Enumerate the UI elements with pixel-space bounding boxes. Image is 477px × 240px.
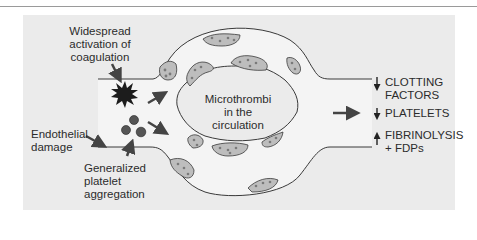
outcome-platelets: PLATELETS xyxy=(385,107,449,120)
outcome-clotting-factors: CLOTTING FACTORS xyxy=(385,76,443,102)
label-microthrombi: Microthrombi in the circulation xyxy=(200,93,276,132)
outcome-fibrinolysis: FIBRINOLYSIS + FDPs xyxy=(385,129,463,155)
label-endothelial-damage: Endothelial damage xyxy=(31,128,88,154)
label-platelet-aggregation: Generalized platelet aggregation xyxy=(84,162,146,201)
label-widespread-coagulation: Widespread activation of coagulation xyxy=(58,25,142,64)
